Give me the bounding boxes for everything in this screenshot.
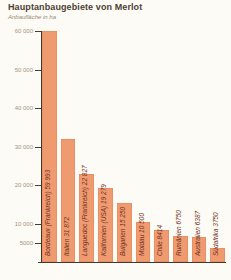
x-axis-line: [38, 262, 226, 263]
y-axis-tick: [35, 243, 41, 244]
y-axis-tick: [35, 31, 41, 32]
y-axis-tick: [35, 70, 41, 71]
y-axis-tick-label: 50 000: [3, 67, 33, 73]
bar-bordeaux-frankreich: Bordeaux (Frankreich) 59 993: [42, 31, 57, 262]
bar-label: Italien 31 872: [63, 217, 71, 256]
y-axis-tick-label: 5000: [3, 240, 33, 246]
bar-australien: Australien 6387: [192, 237, 207, 262]
bar-label: Kalifornien (USA) 19 279: [100, 184, 108, 256]
bar-chile: Chile 8414: [154, 230, 169, 262]
bar-s-dafrika: Südafrika 3750: [210, 248, 225, 262]
bar-bulgarien: Bulgarien 15 250: [117, 203, 132, 262]
y-axis-unit-label: Anbaufläche in ha: [8, 14, 56, 20]
bar-label: Bordeaux (Frankreich) 59 993: [44, 170, 52, 256]
bar-label: Australien 6387: [194, 211, 202, 256]
bar-rum-nien: Rumänien 6750: [173, 236, 188, 262]
chart-panel: Hauptanbaugebiete von Merlot Anbaufläche…: [0, 0, 231, 280]
y-axis-tick: [35, 108, 41, 109]
bar-label: Bulgarien 15 250: [119, 207, 127, 256]
y-axis-tick: [35, 147, 41, 148]
y-axis-tick-label: 60 000: [3, 28, 33, 34]
chart-title: Hauptanbaugebiete von Merlot: [8, 2, 142, 12]
bar-label: Languedoc (Frankreich) 22 827: [81, 165, 89, 256]
bar-moldau: Moldau 10 500: [136, 222, 151, 262]
bar-languedoc-frankreich: Languedoc (Frankreich) 22 827: [79, 174, 94, 262]
y-axis-tick-label: 10 000: [3, 221, 33, 227]
bar-label: Chile 8414: [156, 225, 164, 256]
bar-label: Südafrika 3750: [212, 212, 220, 256]
bar-label: Moldau 10 500: [138, 213, 146, 256]
y-axis-tick: [35, 224, 41, 225]
bar-label: Rumänien 6750: [175, 210, 183, 256]
y-axis-tick-label: 40 000: [3, 105, 33, 111]
y-axis-tick-label: 30 000: [3, 144, 33, 150]
bar-kalifornien-usa: Kalifornien (USA) 19 279: [98, 188, 113, 262]
plot-area: Bordeaux (Frankreich) 59 993Italien 31 8…: [42, 31, 225, 262]
y-axis-tick-label: 20 000: [3, 182, 33, 188]
y-axis-tick: [35, 185, 41, 186]
bar-italien: Italien 31 872: [61, 139, 76, 262]
